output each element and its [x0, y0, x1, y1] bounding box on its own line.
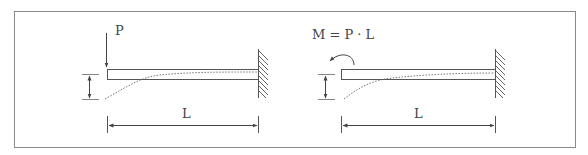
- force-label: P: [115, 23, 124, 38]
- right-cantilever: M = P · L L: [312, 27, 505, 133]
- span-label: L: [182, 106, 191, 121]
- left-wall-hatch: [259, 51, 268, 98]
- moment-arrow-icon: [330, 55, 354, 65]
- cantilever-diagrams: P L M = P · L: [0, 0, 588, 155]
- right-wall-hatch: [496, 51, 505, 98]
- left-cantilever: P L: [82, 23, 268, 133]
- moment-label: M = P · L: [312, 27, 375, 42]
- span-label: L: [414, 106, 423, 121]
- right-beam: [342, 70, 496, 80]
- left-beam: [108, 70, 259, 80]
